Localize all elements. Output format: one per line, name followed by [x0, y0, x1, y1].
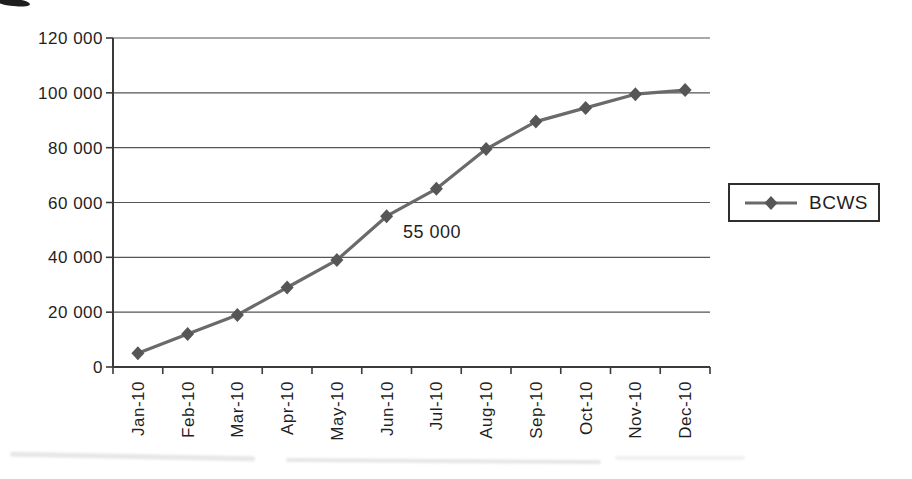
x-tick-label: Feb-10: [179, 381, 198, 438]
x-tick-label: Mar-10: [228, 381, 247, 438]
series-marker-diamond: [679, 83, 692, 97]
legend-box: BCWS: [728, 183, 880, 222]
series-marker-diamond: [131, 346, 144, 360]
y-tick-label: 80 000: [48, 139, 103, 158]
legend-label: BCWS: [809, 192, 868, 214]
y-tick-label: 0: [93, 358, 103, 377]
x-tick-label: May-10: [328, 381, 347, 441]
x-tick-label: Dec-10: [676, 381, 695, 439]
x-tick-label: Jan-10: [129, 381, 148, 436]
x-tick-label: Sep-10: [527, 381, 546, 439]
y-tick-label: 20 000: [48, 303, 103, 322]
series-marker-diamond: [231, 308, 244, 322]
y-tick-label: 40 000: [48, 248, 103, 267]
x-tick-label: Nov-10: [626, 381, 645, 439]
y-tick-label: 60 000: [48, 194, 103, 213]
series-marker-diamond: [529, 115, 542, 129]
y-tick-label: 120 000: [38, 29, 103, 48]
series-marker-diamond: [181, 327, 194, 341]
x-tick-label: Jul-10: [427, 381, 446, 430]
x-tick-label: Aug-10: [477, 381, 496, 439]
chart-canvas: 020 00040 00060 00080 000100 000120 000J…: [0, 0, 912, 479]
x-tick-label: Apr-10: [278, 381, 297, 435]
x-tick-label: Jun-10: [378, 381, 397, 436]
series-marker-diamond: [281, 280, 294, 294]
legend-line-marker-icon: [745, 195, 797, 211]
series-marker-diamond: [629, 87, 642, 101]
series-marker-diamond: [579, 101, 592, 115]
series-data-label: 55 000: [403, 222, 461, 243]
y-tick-label: 100 000: [38, 84, 103, 103]
x-tick-label: Oct-10: [577, 381, 596, 435]
